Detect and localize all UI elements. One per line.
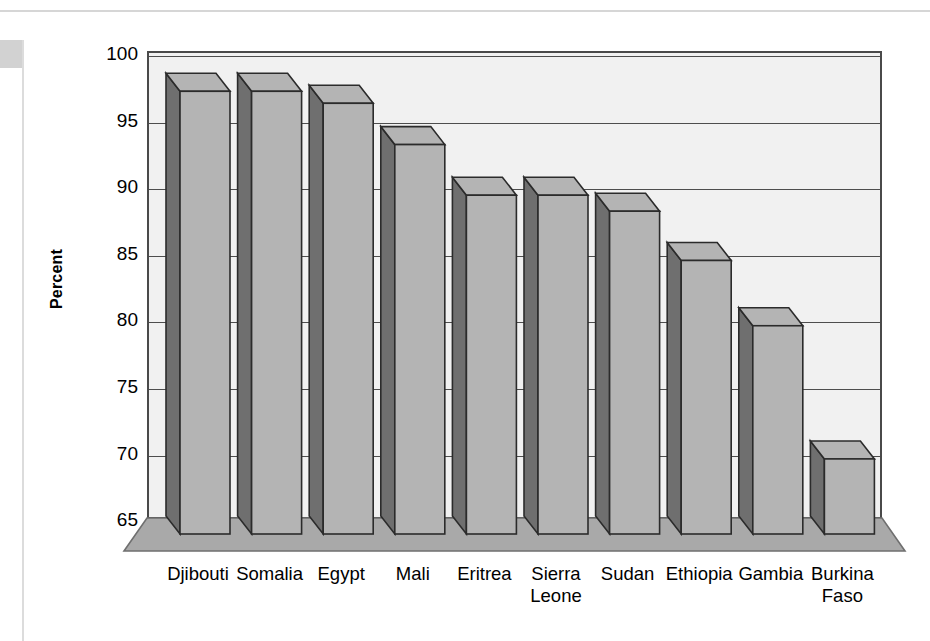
bar-front-face bbox=[538, 195, 588, 534]
bar-side-face bbox=[667, 242, 681, 534]
bar-column[interactable] bbox=[238, 73, 302, 534]
bar-chart-figure: Percent 10095908580757065 DjiboutiSomali… bbox=[0, 0, 930, 641]
bar-column[interactable] bbox=[810, 441, 874, 534]
bar-column[interactable] bbox=[381, 127, 445, 534]
bar-front-face bbox=[753, 326, 803, 534]
bar-front-face bbox=[466, 195, 516, 534]
bar-column[interactable] bbox=[596, 193, 660, 534]
bars-layer bbox=[0, 0, 930, 641]
x-axis-tick-labels: DjiboutiSomaliaEgyptMaliEritreaSierraLeo… bbox=[147, 563, 907, 633]
bar-front-face bbox=[395, 145, 445, 534]
bar-side-face bbox=[309, 85, 323, 534]
bar-front-face bbox=[180, 91, 230, 534]
bar-column[interactable] bbox=[452, 177, 516, 534]
bar-side-face bbox=[596, 193, 610, 534]
bar-column[interactable] bbox=[309, 85, 373, 534]
bar-side-face bbox=[524, 177, 538, 534]
x-tick-label-line: Leone bbox=[506, 585, 606, 607]
bar-front-face bbox=[681, 260, 731, 534]
bar-column[interactable] bbox=[166, 73, 230, 534]
bar-column[interactable] bbox=[667, 242, 731, 534]
x-tick-label-line: Burkina bbox=[792, 563, 892, 585]
bar-side-face bbox=[166, 73, 180, 534]
bar-front-face bbox=[323, 103, 373, 534]
bar-side-face bbox=[238, 73, 252, 534]
x-tick-label: BurkinaFaso bbox=[792, 563, 892, 607]
bar-side-face bbox=[452, 177, 466, 534]
bar-column[interactable] bbox=[524, 177, 588, 534]
bar-front-face bbox=[824, 459, 874, 534]
bar-front-face bbox=[610, 211, 660, 534]
bar-side-face bbox=[381, 127, 395, 534]
x-tick-label-line: Faso bbox=[792, 585, 892, 607]
bar-front-face bbox=[252, 91, 302, 534]
bar-side-face bbox=[739, 308, 753, 534]
bar-column[interactable] bbox=[739, 308, 803, 534]
